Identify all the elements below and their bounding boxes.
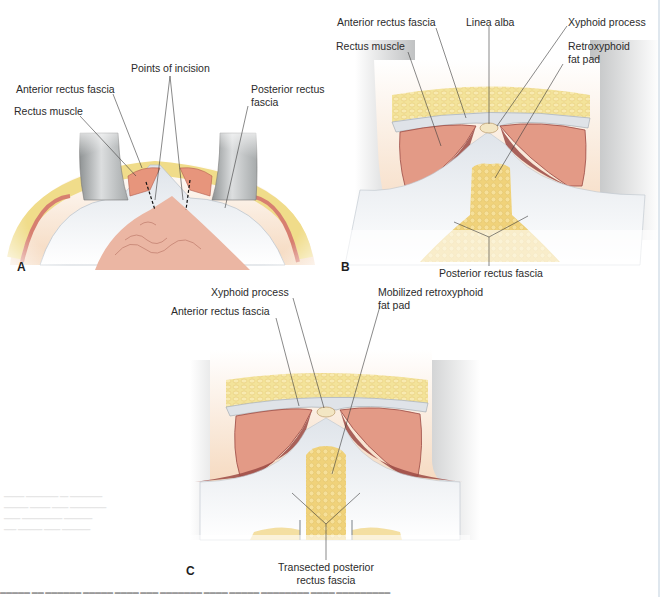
label-mobilized-line2: fat pad: [378, 299, 410, 312]
label-posterior-rectus-fascia-a-line1: Posterior rectus: [251, 83, 325, 96]
label-retroxyphoid-line1: Retroxyphoid: [568, 40, 630, 53]
panel-b-illustration: [340, 40, 660, 280]
label-anterior-rectus-fascia-c: Anterior rectus fascia: [171, 305, 270, 318]
panel-a-illustration: [0, 120, 330, 290]
figure-stage: ━━━━━ ━━━━━━━━ ━━ ━━━━━━━━ ━━━━━━ ━━━━━ …: [0, 0, 660, 597]
panel-letter-c: C: [186, 564, 195, 578]
label-transected-line1: Transected posterior: [276, 561, 376, 574]
panel-letter-a: A: [17, 260, 26, 274]
label-rectus-muscle-a: Rectus muscle: [14, 105, 83, 118]
label-points-of-incision: Points of incision: [131, 62, 210, 75]
label-linea-alba: Linea alba: [466, 16, 514, 29]
label-posterior-rectus-fascia-b: Posterior rectus fascia: [439, 267, 543, 280]
label-retroxyphoid-line2: fat pad: [568, 53, 600, 66]
truncated-caption-strip: ▬▬▬▬▬ ▬▬ ▬▬▬▬▬▬ ▬▬▬▬▬ ▬▬▬▬ ▬▬▬ ▬▬▬▬▬▬▬ ▬…: [0, 589, 660, 597]
label-anterior-rectus-fascia-b: Anterior rectus fascia: [337, 16, 436, 29]
label-posterior-rectus-fascia-a-line2: fascia: [251, 96, 278, 109]
label-anterior-rectus-fascia-a: Anterior rectus fascia: [16, 83, 115, 96]
label-xyphoid-process-c: Xyphoid process: [211, 286, 289, 299]
label-xyphoid-process-b: Xyphoid process: [568, 16, 646, 29]
panel-c-illustration: [190, 350, 480, 565]
label-transected-line2: rectus fascia: [276, 574, 376, 587]
label-rectus-muscle-b: Rectus muscle: [336, 40, 405, 53]
panel-letter-b: B: [341, 260, 350, 274]
label-mobilized-line1: Mobilized retroxyphoid: [378, 286, 483, 299]
